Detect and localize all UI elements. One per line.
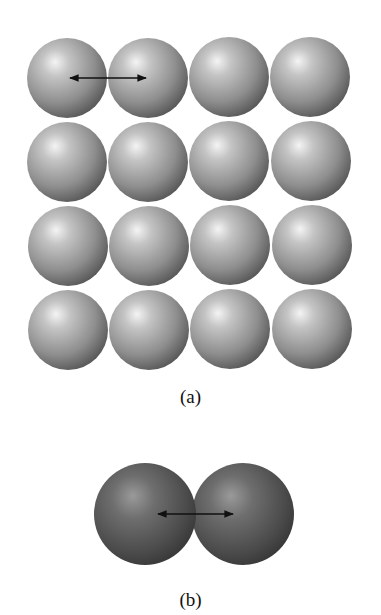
sphere [109,206,189,286]
sphere [27,122,107,202]
sphere [270,37,350,117]
sphere [189,121,269,201]
sphere [271,121,351,201]
sphere [109,290,189,370]
caption-b: (b) [0,589,381,611]
sphere [189,37,269,117]
sphere [28,206,108,286]
caption-a: (a) [0,386,381,408]
sphere [272,289,352,369]
sphere [108,122,188,202]
sphere [190,289,270,369]
sphere-lattice [27,37,352,370]
figure-canvas [0,0,381,615]
sphere [28,290,108,370]
sphere [272,205,352,285]
sphere [190,205,270,285]
